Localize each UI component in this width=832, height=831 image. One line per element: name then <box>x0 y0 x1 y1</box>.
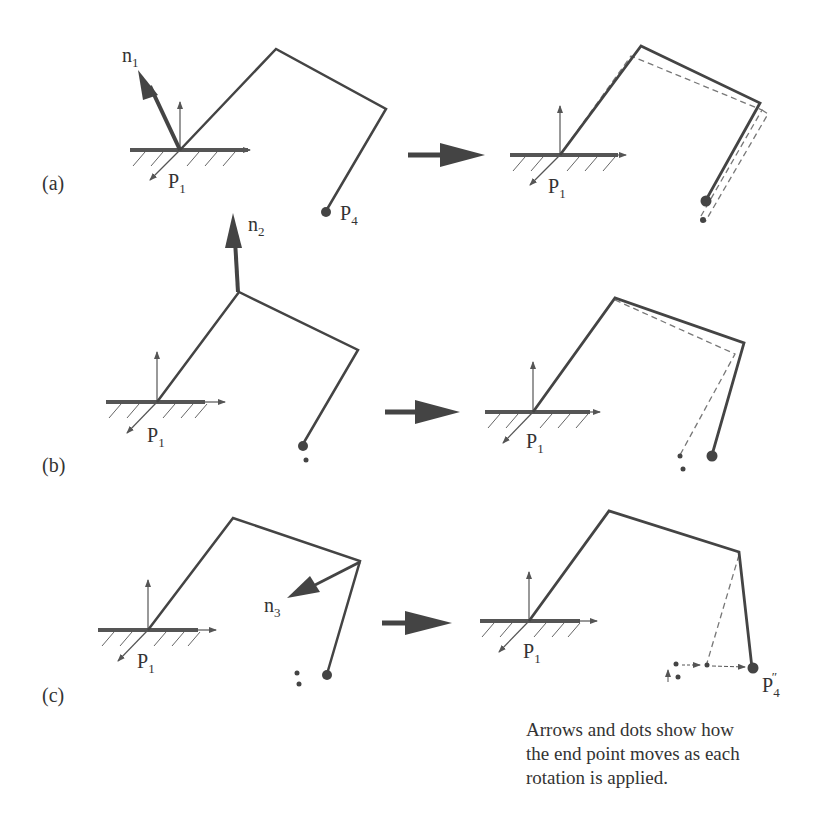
result-base-label-c: P1 <box>523 640 541 666</box>
normal-label-n2: n2 <box>248 213 265 239</box>
panel-label-c: (c) <box>42 684 64 707</box>
panel-b-initial <box>106 213 358 463</box>
transition-arrow-b <box>385 400 460 424</box>
caption-line: the end point moves as each <box>526 742 826 766</box>
diagram-canvas: n1 P1 P4 (a) P1 <box>0 0 832 831</box>
end-label-p4: P4 <box>340 202 358 228</box>
end-point-dot <box>321 207 331 217</box>
base-label-p1: P1 <box>168 170 186 196</box>
final-end-label-p4-double-prime: P4″ <box>762 669 780 700</box>
figure-caption: Arrows and dots show how the end point m… <box>526 718 826 790</box>
normal-label-n3: n3 <box>264 594 281 620</box>
panel-c-result <box>480 511 759 682</box>
normal-label-n1: n1 <box>122 44 139 70</box>
transition-arrow-a <box>408 143 485 167</box>
panel-label-b: (b) <box>42 454 65 477</box>
base-label-p1-c: P1 <box>137 650 155 676</box>
result-base-label-a: P1 <box>548 175 566 201</box>
base-label-p1-b: P1 <box>147 424 165 450</box>
panel-label-a: (a) <box>42 172 64 195</box>
panel-b-result <box>485 298 744 472</box>
caption-line: rotation is applied. <box>526 766 826 790</box>
arm-chain <box>180 49 386 211</box>
caption-line: Arrows and dots show how <box>526 718 826 742</box>
transition-arrow-c <box>382 611 452 635</box>
result-base-label-b: P1 <box>526 430 544 456</box>
